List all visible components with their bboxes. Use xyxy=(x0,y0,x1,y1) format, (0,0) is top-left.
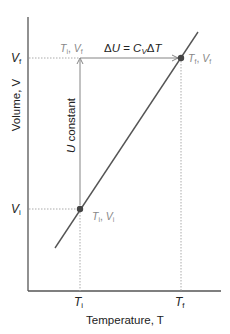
y-tick-vf: Vf xyxy=(11,51,22,66)
x-tick-ti: Ti xyxy=(74,295,83,310)
label-tf-vf: Tf, Vf xyxy=(188,52,211,65)
delta-u-equation: ΔU = CVΔT xyxy=(104,42,162,56)
volume-temperature-diagram: Vf Vi Ti Tf Temperature, T Volume, V Ti,… xyxy=(0,0,230,334)
y-axis-label: Volume, V xyxy=(10,78,22,131)
u-constant-label: U constant xyxy=(65,97,77,153)
x-axis-label: Temperature, T xyxy=(86,314,164,326)
label-ti-vf: Ti, Vf xyxy=(60,42,83,55)
x-tick-tf: Tf xyxy=(175,295,185,310)
initial-point xyxy=(77,206,83,212)
final-point xyxy=(178,55,184,61)
label-ti-vi: Ti, Vi xyxy=(92,210,115,223)
y-tick-vi: Vi xyxy=(11,202,21,217)
